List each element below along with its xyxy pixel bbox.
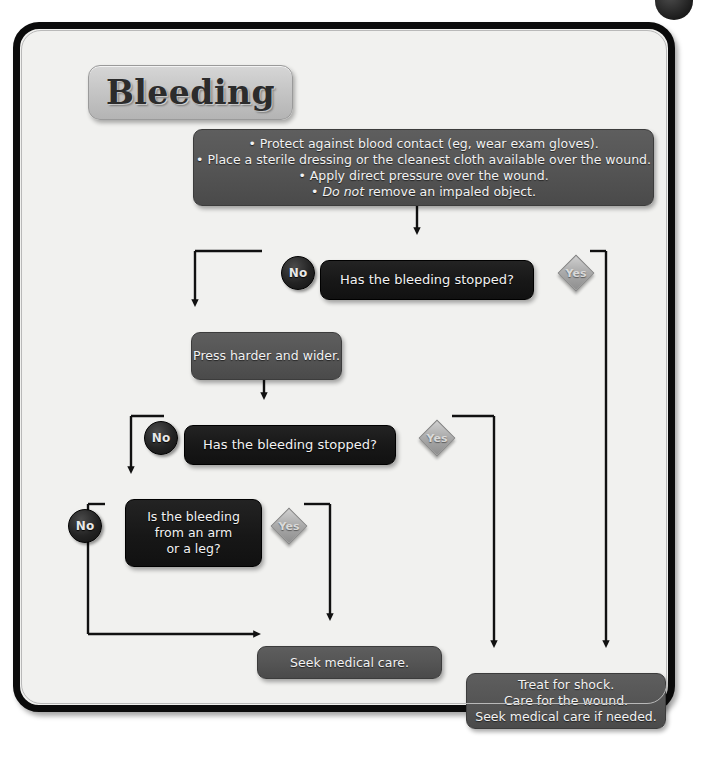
treat-shock-line-1: Treat for shock. <box>475 677 657 693</box>
branch-label-yes-3: Yes <box>272 509 306 543</box>
branch-badge-yes-1: Yes <box>559 256 593 290</box>
press-harder-text: Press harder and wider. <box>193 348 340 364</box>
question-3-line-1: Is the bleeding <box>147 509 240 525</box>
node-seek-medical-care: Seek medical care. <box>257 646 442 679</box>
node-question-3: Is the bleeding from an arm or a leg? <box>125 499 262 567</box>
instruction-line-4: • Do not remove an impaled object. <box>196 184 651 200</box>
node-question-2: Has the bleeding stopped? <box>184 425 396 465</box>
node-treat-for-shock: Treat for shock. Care for the wound. See… <box>466 673 666 729</box>
branch-label-no-2: No <box>152 431 170 445</box>
instruction-line-2: • Place a sterile dressing or the cleane… <box>196 152 651 168</box>
treat-shock-line-2: Care for the wound. <box>475 693 657 709</box>
node-instructions: • Protect against blood contact (eg, wea… <box>193 129 654 206</box>
branch-badge-no-3: No <box>68 509 102 543</box>
node-question-1: Has the bleeding stopped? <box>320 260 534 300</box>
page-root: Bleeding (cont.) Bleeding <box>0 0 703 757</box>
branch-label-yes-2: Yes <box>420 421 454 455</box>
question-3-line-2: from an arm <box>147 525 240 541</box>
instruction-line-1: • Protect against blood contact (eg, wea… <box>196 136 651 152</box>
instruction-line-3: • Apply direct pressure over the wound. <box>196 168 651 184</box>
branch-label-yes-1: Yes <box>559 256 593 290</box>
page-corner-dot <box>655 0 693 20</box>
page-title: Bleeding <box>106 73 275 112</box>
treat-shock-line-3: Seek medical care if needed. <box>475 709 657 725</box>
branch-badge-yes-3: Yes <box>272 509 306 543</box>
question-3-line-3: or a leg? <box>147 541 240 557</box>
branch-label-no-1: No <box>289 266 307 280</box>
question-1-text: Has the bleeding stopped? <box>340 272 514 289</box>
branch-badge-no-1: No <box>281 256 315 290</box>
instruction-emphasis: Do not <box>322 184 364 199</box>
branch-badge-no-2: No <box>144 421 178 455</box>
branch-badge-yes-2: Yes <box>420 421 454 455</box>
branch-label-no-3: No <box>76 519 94 533</box>
seek-medical-care-text: Seek medical care. <box>290 655 409 671</box>
page-frame: Bleeding <box>13 22 675 712</box>
question-2-text: Has the bleeding stopped? <box>203 437 377 454</box>
page-title-tab: Bleeding <box>88 65 293 120</box>
node-press-harder: Press harder and wider. <box>191 332 342 380</box>
